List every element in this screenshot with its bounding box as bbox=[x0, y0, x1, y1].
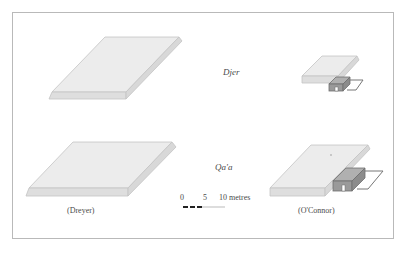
tomb-drawings bbox=[0, 0, 409, 255]
djer-oconnor-slab bbox=[302, 56, 359, 83]
scale-tick-0: 0 bbox=[180, 194, 184, 202]
scale-tick-10-metres: 10 metres bbox=[219, 194, 250, 202]
scale-tick-5: 5 bbox=[203, 194, 207, 202]
qaa-dreyer-slab bbox=[26, 142, 176, 196]
djer-oconnor-annex bbox=[329, 77, 363, 91]
djer-dreyer-slab bbox=[49, 37, 182, 99]
source-label-oconnor: (O'Connor) bbox=[298, 207, 335, 215]
scale-bar bbox=[183, 206, 225, 208]
row-label-djer: Djer bbox=[223, 68, 240, 77]
source-label-dreyer: (Dreyer) bbox=[67, 207, 95, 215]
row-label-qaa: Qa'a bbox=[215, 163, 232, 172]
